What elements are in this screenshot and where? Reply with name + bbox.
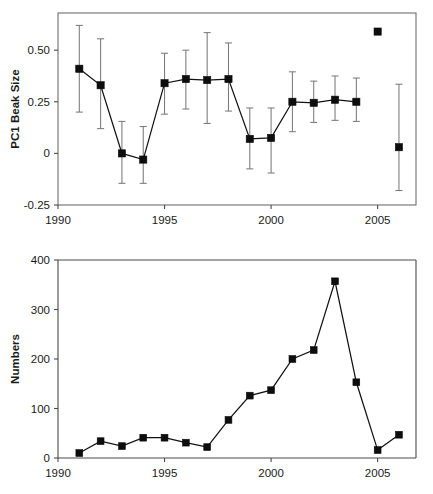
series-line-pc1: [79, 69, 356, 160]
data-point-marker: [97, 82, 104, 89]
data-point-marker: [182, 439, 189, 446]
data-point-marker: [246, 135, 253, 142]
y-axis-title: PC1 Beak Size: [9, 69, 21, 148]
y-tick-label: 300: [31, 304, 50, 316]
data-point-marker: [76, 65, 83, 72]
data-point-marker: [396, 431, 403, 438]
data-point-marker: [225, 416, 232, 423]
data-point-marker: [225, 75, 232, 82]
data-point-marker: [97, 438, 104, 445]
x-tick-label: 1990: [45, 214, 71, 226]
marker-group-pc1: [76, 28, 403, 163]
data-point-marker: [310, 99, 317, 106]
y-tick-label: 0: [44, 452, 50, 464]
chart-pc1-beak-size: -0.2500.250.501990199520002005PC1 Beak S…: [0, 0, 433, 250]
data-point-marker: [289, 98, 296, 105]
data-point-marker: [246, 392, 253, 399]
data-point-marker: [374, 447, 381, 454]
x-tick-label: 1995: [152, 467, 178, 479]
data-point-marker: [76, 450, 83, 457]
y-tick-label: 200: [31, 353, 50, 365]
plot-frame: [58, 13, 416, 205]
data-point-marker: [140, 156, 147, 163]
data-point-marker-unconnected: [395, 144, 402, 151]
data-point-marker: [268, 387, 275, 394]
figure-two-panel-timeseries: -0.2500.250.501990199520002005PC1 Beak S…: [0, 0, 433, 494]
data-point-marker: [140, 434, 147, 441]
data-point-marker: [353, 98, 360, 105]
chart-numbers: 01002003004001990199520002005Numbers: [0, 250, 433, 494]
x-tick-label: 2005: [365, 467, 391, 479]
data-point-marker: [118, 150, 125, 157]
x-tick-label: 1990: [45, 467, 71, 479]
y-tick-label: 0.25: [28, 96, 50, 108]
y-tick-label: 0: [44, 147, 50, 159]
data-point-marker: [204, 444, 211, 451]
series-polyline: [79, 281, 399, 453]
x-tick-label: 1995: [152, 214, 178, 226]
x-tick-label: 2005: [365, 214, 391, 226]
data-point-marker: [289, 356, 296, 363]
y-axis-title: Numbers: [9, 334, 21, 384]
data-point-marker: [310, 347, 317, 354]
data-point-marker: [204, 76, 211, 83]
data-point-marker: [182, 75, 189, 82]
data-point-marker: [161, 434, 168, 441]
y-tick-label: 400: [31, 254, 50, 266]
data-point-marker: [119, 443, 126, 450]
series-polyline: [79, 69, 356, 160]
data-point-marker: [332, 278, 339, 285]
y-tick-label: -0.25: [24, 199, 50, 211]
y-tick-label: 100: [31, 403, 50, 415]
data-point-marker: [353, 379, 360, 386]
data-point-marker: [267, 134, 274, 141]
data-point-marker: [161, 80, 168, 87]
y-tick-label: 0.50: [28, 44, 50, 56]
data-point-marker-unconnected: [374, 28, 381, 35]
x-tick-label: 2000: [258, 214, 284, 226]
data-point-marker: [331, 96, 338, 103]
panel-numbers: 01002003004001990199520002005Numbers: [0, 250, 433, 494]
x-tick-label: 2000: [258, 467, 284, 479]
panel-pc1-beak-size: -0.2500.250.501990199520002005PC1 Beak S…: [0, 0, 433, 250]
series-line-numbers: [79, 281, 399, 453]
